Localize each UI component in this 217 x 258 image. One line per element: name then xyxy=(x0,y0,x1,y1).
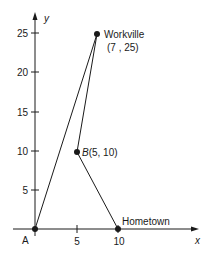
hometown-label: Hometown xyxy=(122,216,170,227)
x-tick-label-5: 5 xyxy=(74,236,80,247)
x-tick-label-10: 10 xyxy=(113,236,125,247)
segment-a-workville xyxy=(35,34,97,229)
y-tick-label-10: 10 xyxy=(17,146,29,157)
coordinate-plot: 25 20 15 10 5 5 10 y x A B(5, 10) Workvi… xyxy=(0,0,217,258)
y-tick-label-15: 15 xyxy=(17,107,29,118)
point-b-coords: (5, 10) xyxy=(89,147,118,158)
segment-workville-b xyxy=(77,34,97,152)
y-tick-label-25: 25 xyxy=(17,28,29,39)
point-a-label: A xyxy=(22,235,29,246)
point-b xyxy=(74,149,80,155)
workville-coords: (7 , 25) xyxy=(107,42,139,53)
y-tick-label-20: 20 xyxy=(17,67,29,78)
y-axis-arrow-icon xyxy=(33,12,38,20)
point-hometown xyxy=(115,226,121,232)
route-segments xyxy=(35,34,118,229)
y-tick-label-5: 5 xyxy=(22,185,28,196)
point-a xyxy=(32,226,38,232)
workville-label: Workville xyxy=(104,29,145,40)
y-axis-label: y xyxy=(43,13,50,24)
axes xyxy=(13,18,193,236)
segment-b-hometown xyxy=(77,152,118,229)
point-b-label: B(5, 10) xyxy=(82,147,118,158)
point-workville xyxy=(94,31,100,37)
x-axis-label: x xyxy=(194,235,201,246)
x-axis-arrow-icon xyxy=(191,227,199,232)
